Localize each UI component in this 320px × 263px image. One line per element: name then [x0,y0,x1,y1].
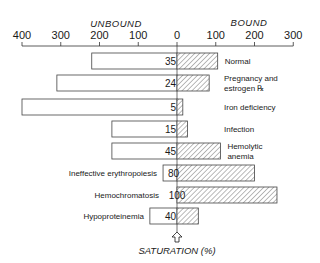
bound-bar [177,143,220,159]
bar-row: 24Pregnancy andestrogen ℞ [57,74,278,93]
bound-bar [177,165,255,181]
tick-label: 200 [90,29,108,41]
saturation-footer: SATURATION (%) [138,232,215,256]
unbound-bar [22,99,177,115]
bar-row: 80Ineffective erythropoiesis [69,165,255,181]
tick-label: 200 [245,29,263,41]
saturation-label: 40 [165,211,177,222]
bar-row: 35Normal [92,53,251,69]
bar-row: 5Iron deficiency [22,99,276,115]
unbound-group-label: UNBOUND [90,18,142,29]
tick-label: 400 [13,29,31,41]
category-label: Infection [224,125,254,134]
tick-label: 100 [207,29,225,41]
tick-label: 100 [129,29,147,41]
category-label: estrogen ℞ [224,84,264,93]
bound-bar [177,53,218,69]
category-label: Pregnancy and [224,74,278,83]
bars: 35Normal24Pregnancy andestrogen ℞5Iron d… [22,53,278,224]
bar-row: 45Hemolyticanemia [112,142,263,161]
saturation-label: 35 [165,56,177,67]
tick-label: 300 [52,29,70,41]
category-label: Hypoproteinemia [83,212,144,221]
saturation-label: 45 [165,146,177,157]
category-label: anemia [227,152,254,161]
bound-bar [177,187,277,203]
bar-row: 100Hemochromatosis [95,187,277,203]
tick-label: 0 [174,29,180,41]
saturation-label: 100 [169,190,186,201]
saturation-label: 5 [170,102,176,113]
category-label: Hemochromatosis [95,191,159,200]
saturation-footer-label: SATURATION (%) [138,245,215,256]
bound-group-label: BOUND [231,17,268,28]
iron-binding-chart: UNBOUND BOUND 4003002001000100200300 35N… [0,0,320,263]
bound-bar [177,75,209,91]
category-label: Hemolytic [227,142,262,151]
category-label: Ineffective erythropoiesis [69,169,157,178]
saturation-label: 15 [165,124,177,135]
bar-row: 15Infection [112,121,254,137]
tick-label: 300 [284,29,302,41]
category-label: Iron deficiency [224,103,276,112]
bar-row: 40Hypoproteinemia [83,208,198,224]
bound-bar [177,208,198,224]
bound-bar [177,121,187,137]
unbound-bar [57,75,177,91]
category-label: Normal [225,57,251,66]
bound-bar [177,99,183,115]
up-arrow-outline-icon [172,232,182,242]
saturation-label: 24 [165,78,177,89]
saturation-label: 80 [168,168,180,179]
